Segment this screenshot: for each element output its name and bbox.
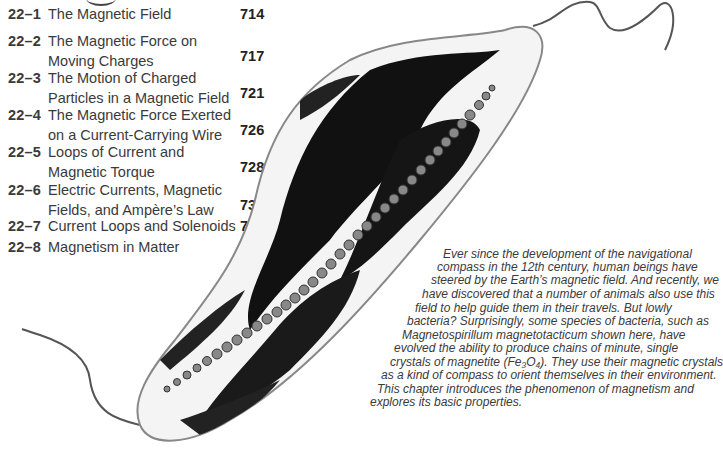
intro-line: explores its basic properties. [370,394,522,410]
toc-item-title: Electric Currents, Magnetic Fields, and … [48,180,238,220]
intro-line: field to help guide them in their travel… [415,300,672,316]
intro-line: crystals of magnetite (Fe₃O₄). They use … [390,354,723,370]
toc-item-page: 737 [240,237,264,257]
toc-item-title: Magnetism in Matter [48,237,238,257]
toc-item-title: The Magnetic Field [48,4,238,24]
toc-item-number: 22–1 [8,4,41,24]
intro-line: have discovered that a number of animals… [422,286,715,302]
toc-item-title: The Magnetic Force Exerted on a Current-… [48,105,238,145]
toc-item-title: Current Loops and Solenoids [48,216,238,236]
intro-line: compass in the 12th century, human being… [437,259,698,275]
toc-item-page: 714 [240,4,264,24]
toc-item-number: 22–4 [8,105,41,125]
toc-item-number: 22–2 [8,31,41,51]
intro-line: Ever since the development of the naviga… [443,246,692,262]
toc-item-title: The Magnetic Force on Moving Charges [48,31,238,71]
toc-item-number: 22–7 [8,216,41,236]
intro-line: evolved the ability to produce chains of… [394,340,678,356]
intro-line: steered by the Earth’s magnetic field. A… [431,272,719,288]
toc-item-page: 734 [240,216,264,236]
intro-line: Magnetospirillum magnetotacticum shown h… [402,327,685,343]
toc-item-page: 726 [240,120,264,140]
toc-item-title: The Motion of Charged Particles in a Mag… [48,68,238,108]
intro-line: bacteria? Surprisingly, some species of … [407,313,709,329]
toc-item-page: 721 [240,83,264,103]
toc-item-page: 717 [240,46,264,66]
intro-line: as a kind of compass to orient themselve… [381,367,717,383]
toc-item-number: 22–8 [8,237,41,257]
intro-line: This chapter introduces the phenomenon o… [377,381,694,397]
toc-item-page: 730 [240,195,264,215]
toc-item-number: 22–3 [8,68,41,88]
toc-item-title: Loops of Current and Magnetic Torque [48,142,238,182]
toc-item-page: 728 [240,157,264,177]
toc-item-number: 22–6 [8,180,41,200]
toc-item-number: 22–5 [8,142,41,162]
